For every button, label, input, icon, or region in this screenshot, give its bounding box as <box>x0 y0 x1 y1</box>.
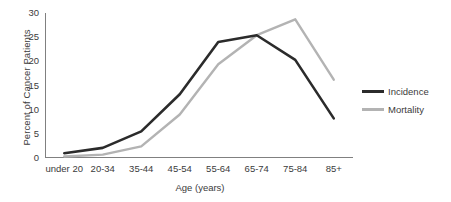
y-tick-label: 30 <box>17 8 39 18</box>
legend-color-swatch <box>362 90 384 93</box>
axis-lines <box>45 13 353 158</box>
legend-label: Mortality <box>388 104 424 115</box>
y-tick-label: 15 <box>17 81 39 91</box>
x-tick-label: 85+ <box>306 163 362 174</box>
chart-legend: IncidenceMortality <box>362 82 450 118</box>
legend-color-swatch <box>362 108 384 111</box>
y-tick-label: 25 <box>17 32 39 42</box>
tick-marks <box>45 13 353 158</box>
series-lines <box>64 19 334 156</box>
series-line-mortality <box>64 19 334 156</box>
y-tick-label: 0 <box>17 153 39 163</box>
y-tick-label: 5 <box>17 129 39 139</box>
legend-item: Mortality <box>362 100 450 118</box>
legend-label: Incidence <box>388 86 429 97</box>
y-tick-label: 10 <box>17 105 39 115</box>
plot-area <box>45 13 353 158</box>
cancer-age-line-chart: Percent of Cancer Patients 051015202530 … <box>0 0 451 202</box>
legend-item: Incidence <box>362 82 450 100</box>
plot-svg <box>45 13 353 158</box>
series-line-incidence <box>64 35 334 153</box>
x-axis-title: Age (years) <box>40 182 360 193</box>
y-tick-label: 20 <box>17 56 39 66</box>
